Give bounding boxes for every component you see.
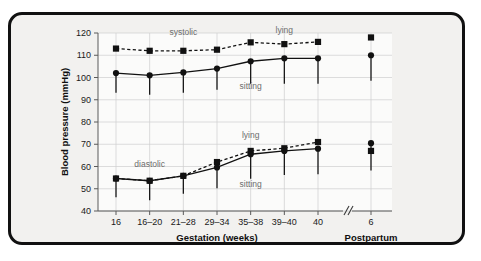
data-point-circle xyxy=(113,175,119,181)
data-point-circle xyxy=(315,55,321,61)
y-tick-label: 50 xyxy=(81,184,91,194)
data-point-circle xyxy=(281,148,287,154)
x-tick-label: 40 xyxy=(313,217,323,227)
x-tick-label: 35–38 xyxy=(238,217,263,227)
y-tick-label: 120 xyxy=(76,28,91,38)
data-point-circle xyxy=(180,173,186,179)
y-tick-label: 100 xyxy=(76,73,91,83)
data-point-circle xyxy=(180,69,186,75)
data-point-circle xyxy=(281,55,287,61)
x-axis-title-postpartum: Postpartum xyxy=(345,232,398,243)
data-point-square xyxy=(315,139,321,145)
data-point-square xyxy=(113,45,119,51)
y-tick-label: 110 xyxy=(77,50,91,60)
y-tick-label: 90 xyxy=(81,95,91,105)
data-point-circle xyxy=(248,58,254,64)
data-point-square xyxy=(368,34,374,40)
annotation-lying: lying xyxy=(242,130,260,140)
data-point-square xyxy=(147,48,153,54)
x-tick-label: 29–34 xyxy=(204,217,229,227)
annotation-diastolic: diastolic xyxy=(134,159,165,169)
data-point-square xyxy=(214,47,220,53)
data-point-square xyxy=(180,48,186,54)
annotation-systolic: systolic xyxy=(169,27,198,37)
x-axis-tick-labels: 1616–2021–2829–3435–3839–40406 xyxy=(111,217,374,227)
data-point-circle xyxy=(147,178,153,184)
data-point-square xyxy=(281,41,287,47)
data-point-circle xyxy=(147,72,153,78)
annotation-lying: lying xyxy=(276,25,294,35)
data-point-circle xyxy=(113,70,119,76)
y-axis-title: Blood pressure (mmHg) xyxy=(59,68,70,176)
data-point-square xyxy=(248,39,254,45)
y-tick-label: 70 xyxy=(81,139,91,149)
y-tick-label: 80 xyxy=(81,117,91,127)
data-point-circle xyxy=(214,164,220,170)
chart-svg: systoliclyingsittingdiastoliclyingsittin… xyxy=(0,0,481,261)
data-point-circle xyxy=(315,146,321,152)
x-tick-label-postpartum: 6 xyxy=(368,217,373,227)
data-point-circle xyxy=(368,52,374,58)
x-tick-label: 16 xyxy=(111,217,121,227)
x-tick-label: 21–28 xyxy=(171,217,196,227)
annotation-sitting: sitting xyxy=(240,81,262,91)
data-point-square xyxy=(315,39,321,45)
x-tick-label: 16–20 xyxy=(137,217,162,227)
data-point-square xyxy=(214,159,220,165)
y-tick-label: 60 xyxy=(81,162,91,172)
x-axis-title: Gestation (weeks) xyxy=(176,232,257,243)
y-tick-label: 40 xyxy=(81,206,91,216)
x-tick-label: 39–40 xyxy=(272,217,297,227)
data-point-circle xyxy=(248,151,254,157)
blood-pressure-chart: systoliclyingsittingdiastoliclyingsittin… xyxy=(0,0,481,261)
y-axis-tick-labels: 405060708090100110120 xyxy=(76,28,91,216)
annotation-sitting: sitting xyxy=(240,179,262,189)
data-point-circle xyxy=(368,140,374,146)
data-point-circle xyxy=(214,66,220,72)
